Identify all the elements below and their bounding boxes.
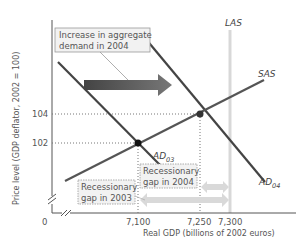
svg-text:gap in 2003: gap in 2003 (81, 193, 132, 203)
y-axis-title: Price level (GDP deflator, 2002 = 100) (12, 52, 21, 205)
ad04-label: AD04 (258, 177, 280, 190)
y-tick-102: 102 (32, 138, 48, 148)
gap-2003-arrow-icon (140, 193, 229, 207)
gap-2004-arrow-icon (201, 181, 229, 193)
callout-leader (100, 52, 128, 80)
callout-ad-increase: Increase in aggregate demand in 2004 (55, 28, 152, 52)
origin-label: 0 (42, 217, 47, 227)
x-axis-title: Real GDP (billions of 2002 euros) (143, 229, 275, 238)
sas-label: SAS (258, 69, 276, 79)
x-tick-7300: 7,300 (218, 217, 242, 227)
y-tick-104: 104 (32, 109, 48, 119)
equilibrium-2003-point (135, 140, 142, 147)
x-tick-7100: 7,100 (126, 217, 150, 227)
las-label: LAS (225, 18, 242, 28)
callout-gap-2004: Recessionary gap in 2004 (140, 164, 199, 188)
x-tick-7250: 7,250 (187, 217, 211, 227)
svg-text:Increase in aggregate: Increase in aggregate (59, 30, 152, 40)
ad-shift-arrow-icon (84, 74, 172, 96)
svg-text:Recessionary: Recessionary (143, 166, 199, 176)
svg-text:Recessionary: Recessionary (81, 182, 137, 192)
callout-gap-2003: Recessionary gap in 2003 (78, 180, 137, 204)
svg-text:gap in 2004: gap in 2004 (143, 177, 194, 187)
svg-text:demand in 2004: demand in 2004 (59, 41, 129, 51)
aggregate-demand-supply-chart: Increase in aggregate demand in 2004 Rec… (0, 0, 296, 248)
x-axis-break-icon (61, 209, 71, 217)
equilibrium-2004-point (197, 111, 204, 118)
